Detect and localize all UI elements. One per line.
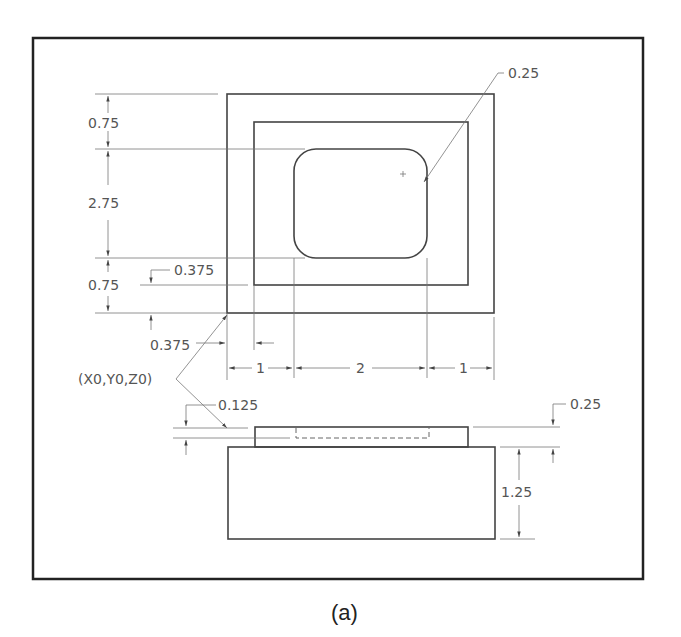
origin-label: (X0,Y0,Z0)	[78, 371, 152, 387]
dim-left-margin: 1	[256, 360, 265, 376]
dim-bottom-margin: 0.75	[88, 277, 119, 293]
pocket-hidden-line	[296, 428, 429, 438]
top-view: 0.75 2.75 0.75 0.375 0.375 1 2 1 0	[88, 65, 539, 380]
base-block-side	[228, 447, 495, 539]
raised-step-side	[255, 427, 468, 447]
dim-base-height: 1.25	[501, 484, 532, 500]
side-view: 0.125 0.25 1.25	[173, 396, 601, 539]
center-mark-icon	[400, 171, 406, 177]
technical-drawing: 0.75 2.75 0.75 0.375 0.375 1 2 1 0	[0, 0, 681, 637]
drawing-frame	[33, 38, 643, 579]
outer-stock-outline	[227, 94, 494, 313]
dim-right-margin: 1	[459, 360, 468, 376]
dim-pocket-width: 2	[356, 360, 365, 376]
dim-step-offset-x: 0.375	[150, 337, 190, 353]
figure-caption: (a)	[331, 600, 358, 625]
pocket-outline	[294, 149, 427, 258]
origin-callout: (X0,Y0,Z0)	[78, 315, 227, 428]
dim-top-margin: 0.75	[88, 115, 119, 131]
dim-pocket-height: 2.75	[88, 195, 119, 211]
raised-step-outline	[254, 122, 468, 285]
dim-step-height: 0.25	[570, 396, 601, 412]
dim-corner-radius: 0.25	[508, 65, 539, 81]
dim-pocket-depth: 0.125	[218, 397, 258, 413]
dim-step-offset-y: 0.375	[174, 262, 214, 278]
